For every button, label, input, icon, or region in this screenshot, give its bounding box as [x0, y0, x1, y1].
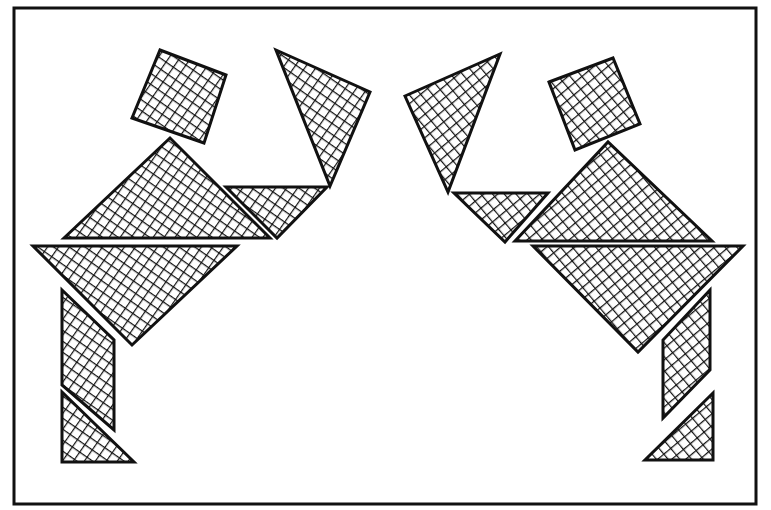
diagram-canvas — [0, 0, 771, 510]
arm-triangle — [276, 50, 370, 186]
head-square — [549, 58, 640, 150]
right-figure — [405, 54, 743, 460]
left-figure — [33, 50, 370, 462]
head-square — [132, 50, 226, 143]
tangram-diagram — [0, 0, 771, 510]
arm-triangle — [405, 54, 500, 192]
